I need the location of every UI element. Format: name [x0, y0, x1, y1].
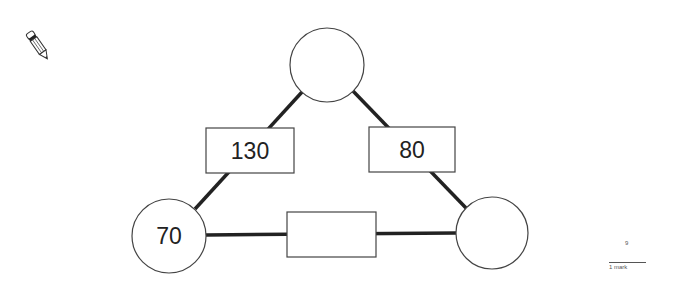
- number-triangle-diagram: 70 130 80: [0, 0, 676, 290]
- circle-top[interactable]: [290, 28, 364, 102]
- marks-label: 1 mark: [609, 264, 627, 270]
- box-left-side: 130: [206, 128, 294, 173]
- circle-left-value: 70: [156, 223, 182, 249]
- box-bottom[interactable]: [287, 212, 376, 257]
- circle-left: 70: [132, 199, 206, 273]
- question-number: 9: [625, 240, 628, 246]
- box-right-side: 80: [369, 127, 455, 172]
- box-left-side-value: 130: [231, 138, 269, 164]
- mark-divider: [609, 262, 646, 263]
- circle-right[interactable]: [456, 197, 528, 269]
- box-right-side-value: 80: [399, 137, 425, 163]
- pencil-icon: [26, 30, 51, 61]
